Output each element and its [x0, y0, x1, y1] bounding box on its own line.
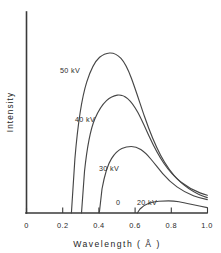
x-tick-label-0: 0 — [24, 221, 29, 230]
x-tick-label-group: 0 0.2 0.4 0.6 0.8 1.0 — [24, 221, 213, 230]
x-tick-label-1-0: 1.0 — [201, 221, 212, 230]
curve-annotation-group: 50 kV 40 kV 30 kV 0 20 kV — [60, 66, 157, 207]
spectrum-curves-group — [71, 53, 207, 213]
xray-spectrum-figure: 0 0.2 0.4 0.6 0.8 1.0 50 kV 40 kV 30 kV … — [0, 0, 221, 253]
curve-label-20kv: 20 kV — [137, 198, 157, 207]
axes-group — [26, 12, 207, 213]
curve-label-zero: 0 — [116, 198, 120, 207]
curve-label-40kv: 40 kV — [75, 115, 95, 124]
x-axis-title: Wavelength ( Å ) — [73, 239, 161, 249]
curve-40kv — [82, 95, 208, 213]
curve-50kv — [71, 53, 207, 213]
x-tick-label-0-2: 0.2 — [57, 221, 68, 230]
curve-label-30kv: 30 kV — [99, 164, 119, 173]
y-axis-title: Intensity — [6, 92, 15, 132]
x-tick-label-0-8: 0.8 — [166, 221, 177, 230]
chart-canvas: 0 0.2 0.4 0.6 0.8 1.0 50 kV 40 kV 30 kV … — [0, 0, 221, 253]
x-tick-label-0-6: 0.6 — [129, 221, 140, 230]
curve-label-50kv: 50 kV — [60, 66, 80, 75]
x-tick-label-0-4: 0.4 — [93, 221, 104, 230]
x-tick-marks — [27, 208, 208, 214]
